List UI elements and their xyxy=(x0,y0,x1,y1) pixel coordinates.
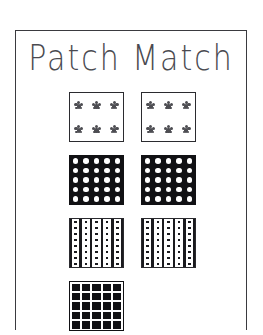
stripe-motif xyxy=(173,219,175,267)
stripe-motif xyxy=(142,219,144,267)
patch-stripe-right[interactable] xyxy=(141,218,196,268)
stripe-dot-motif xyxy=(116,227,119,230)
grid-line-horizontal xyxy=(70,310,123,312)
grid-line-vertical xyxy=(90,282,92,330)
polka-dot-motif xyxy=(187,177,193,183)
stripe-dot-motif xyxy=(74,263,77,266)
stripe-dot-motif xyxy=(178,257,181,260)
floral-motif xyxy=(110,125,119,133)
polka-dot-motif xyxy=(145,168,151,174)
floral-motif xyxy=(74,101,83,109)
stripe-dot-motif xyxy=(146,233,149,236)
polka-dot-motif xyxy=(115,177,121,183)
stripe-dot-motif xyxy=(85,221,88,224)
floral-motif xyxy=(146,125,155,133)
polka-dot-motif xyxy=(83,158,89,164)
polka-dot-motif xyxy=(73,187,79,193)
patch-polka-left[interactable] xyxy=(69,155,124,205)
stripe-dot-motif xyxy=(106,233,109,236)
stripe-dot-motif xyxy=(106,245,109,248)
polka-dot-motif xyxy=(83,196,89,202)
polka-dot-motif xyxy=(115,196,121,202)
grid-line-horizontal xyxy=(70,319,123,321)
patch-stripe-left[interactable] xyxy=(69,218,124,268)
floral-motif xyxy=(92,101,101,109)
polka-dot-motif xyxy=(94,168,100,174)
polka-dot-motif xyxy=(104,177,110,183)
floral-motif xyxy=(164,125,173,133)
stripe-dot-motif xyxy=(116,245,119,248)
stripe-dot-motif xyxy=(178,245,181,248)
grid-line-horizontal xyxy=(70,329,123,331)
stripe-dot-motif xyxy=(106,251,109,254)
stripe-dot-motif xyxy=(85,257,88,260)
stripe-dot-motif xyxy=(188,257,191,260)
stripe-dot-motif xyxy=(188,251,191,254)
stripe-motif xyxy=(193,219,195,267)
stripe-dot-motif xyxy=(116,263,119,266)
stripe-dot-motif xyxy=(85,227,88,230)
polka-dot-motif xyxy=(166,196,172,202)
stripe-dot-motif xyxy=(95,245,98,248)
stripe-dot-motif xyxy=(167,245,170,248)
stripe-motif xyxy=(70,219,72,267)
stripe-dot-motif xyxy=(178,227,181,230)
stripe-dot-motif xyxy=(167,233,170,236)
stripe-dot-motif xyxy=(178,239,181,242)
stripe-dot-motif xyxy=(188,239,191,242)
polka-dot-motif xyxy=(94,177,100,183)
polka-dot-motif xyxy=(94,196,100,202)
stripe-motif xyxy=(111,219,113,267)
stripe-dot-motif xyxy=(157,251,160,254)
stripe-dot-motif xyxy=(188,233,191,236)
patch-row-4 xyxy=(69,281,197,335)
polka-dot-motif xyxy=(115,158,121,164)
stripe-dot-motif xyxy=(178,263,181,266)
polka-dot-motif xyxy=(73,168,79,174)
stripe-motif xyxy=(90,219,92,267)
stripe-dot-motif xyxy=(157,227,160,230)
stripe-dot-motif xyxy=(95,221,98,224)
stripe-dot-motif xyxy=(74,233,77,236)
polka-dot-motif xyxy=(145,196,151,202)
polka-dot-motif xyxy=(155,187,161,193)
stripe-dot-motif xyxy=(157,257,160,260)
patch-grid-left[interactable] xyxy=(69,281,124,331)
polka-dot-motif xyxy=(166,177,172,183)
stripe-dot-motif xyxy=(157,221,160,224)
patch-polka-right[interactable] xyxy=(141,155,196,205)
stripe-dot-motif xyxy=(74,257,77,260)
patch-floral-left[interactable] xyxy=(69,92,124,142)
stripe-dot-motif xyxy=(74,251,77,254)
polka-dot-motif xyxy=(187,196,193,202)
patch-grid xyxy=(69,92,197,335)
stripe-dot-motif xyxy=(157,245,160,248)
patch-floral-right[interactable] xyxy=(141,92,196,142)
stripe-dot-motif xyxy=(167,251,170,254)
polka-dot-motif xyxy=(104,168,110,174)
polka-dot-motif xyxy=(166,158,172,164)
polka-dot-motif xyxy=(145,187,151,193)
stripe-dot-motif xyxy=(116,251,119,254)
polka-dot-motif xyxy=(176,158,182,164)
stripe-dot-motif xyxy=(85,239,88,242)
polka-dot-motif xyxy=(94,187,100,193)
stripe-dot-motif xyxy=(85,251,88,254)
stripe-dot-motif xyxy=(146,227,149,230)
stripe-dot-motif xyxy=(188,221,191,224)
stripe-dot-motif xyxy=(95,257,98,260)
stripe-dot-motif xyxy=(146,239,149,242)
grid-line-vertical xyxy=(70,282,72,330)
stripe-dot-motif xyxy=(188,263,191,266)
polka-dot-motif xyxy=(145,158,151,164)
stripe-dot-motif xyxy=(85,245,88,248)
stripe-dot-motif xyxy=(116,239,119,242)
polka-dot-motif xyxy=(155,168,161,174)
stripe-dot-motif xyxy=(116,221,119,224)
stripe-dot-motif xyxy=(157,233,160,236)
floral-motif xyxy=(110,101,119,109)
stripe-dot-motif xyxy=(106,239,109,242)
stripe-dot-motif xyxy=(74,221,77,224)
stripe-dot-motif xyxy=(116,233,119,236)
grid-line-vertical xyxy=(111,282,113,330)
